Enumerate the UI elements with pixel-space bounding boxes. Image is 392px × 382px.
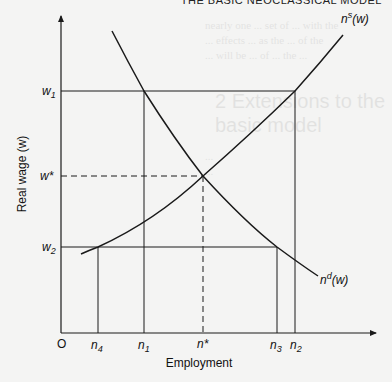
n4-label: n4 xyxy=(91,338,103,354)
demand-curve-label: nd(w) xyxy=(320,271,348,287)
wstar-label: w* xyxy=(40,169,54,183)
n1-label: n1 xyxy=(138,338,150,354)
origin-label: O xyxy=(57,337,66,351)
x-axis-title: Employment xyxy=(166,356,233,370)
n3-label: n3 xyxy=(270,338,282,354)
y-axis-title: Real wage (w) xyxy=(15,136,29,213)
supply-curve-label: ns(w) xyxy=(341,10,369,26)
labor-demand-curve xyxy=(112,31,318,276)
w1-label: w1 xyxy=(42,84,56,100)
labor-market-diagram: ns(w) nd(w) w1 w* w2 O n4 n1 n* n3 n2 Em… xyxy=(0,0,392,382)
labor-supply-curve xyxy=(81,35,343,254)
n2-label: n2 xyxy=(290,338,302,354)
nstar-label: n* xyxy=(197,337,209,351)
w2-label: w2 xyxy=(42,240,56,256)
